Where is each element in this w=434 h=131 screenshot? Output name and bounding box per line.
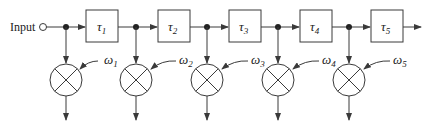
- weight-label: ω4: [322, 52, 336, 69]
- multiplier-icon: [50, 64, 82, 96]
- weight-label: ω2: [179, 52, 193, 69]
- multiplier-icon: [191, 64, 223, 96]
- multiplier-icon: [120, 64, 152, 96]
- weight-label: ω5: [393, 52, 407, 69]
- weight-arrow: [80, 61, 98, 69]
- multiplier-icon: [262, 64, 294, 96]
- weight-arrow: [364, 61, 390, 69]
- weight-arrow: [222, 61, 248, 69]
- delay-line-diagram: Input τ1 ω1 τ2 ω2: [0, 0, 434, 131]
- input-terminal: [40, 24, 47, 31]
- multiplier-icon: [333, 64, 365, 96]
- weight-arrow: [293, 61, 319, 69]
- weight-label: ω3: [251, 52, 265, 69]
- weight-label: ω1: [104, 52, 118, 69]
- weight-arrow: [151, 61, 176, 69]
- input-label: Input: [10, 20, 36, 34]
